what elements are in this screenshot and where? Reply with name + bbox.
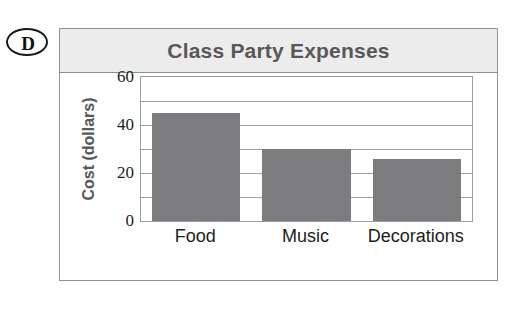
y-axis-tick-label: 0	[126, 212, 135, 229]
bar-music	[262, 149, 350, 221]
chart-figure-frame: Class Party Expenses Cost (dollars) 0204…	[59, 28, 498, 281]
question-marker: D	[6, 28, 50, 58]
x-axis-label-food: Food	[175, 226, 216, 247]
y-axis-tick-labels: 0204060	[104, 74, 134, 222]
bars-layer	[141, 77, 472, 221]
y-axis-tick-label: 40	[117, 116, 134, 133]
x-axis-label-music: Music	[282, 226, 329, 247]
y-axis-tick-label: 60	[117, 68, 134, 85]
x-axis-label-decorations: Decorations	[368, 226, 464, 247]
question-marker-letter: D	[21, 34, 35, 53]
y-axis-title: Cost (dollars)	[76, 74, 102, 224]
plot-area	[140, 76, 473, 222]
y-axis-title-text: Cost (dollars)	[80, 97, 98, 200]
bar-food	[152, 113, 240, 221]
chart-body: Cost (dollars) 0204060 FoodMusicDecorati…	[60, 74, 497, 280]
y-axis-tick-label: 20	[117, 164, 134, 181]
bar-decorations	[373, 159, 461, 221]
x-axis-category-labels: FoodMusicDecorations	[140, 226, 473, 256]
page-title: Class Party Expenses	[167, 39, 389, 63]
